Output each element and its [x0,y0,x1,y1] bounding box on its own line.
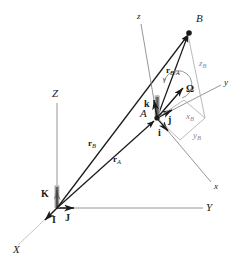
Y-axis-label: Y [206,202,212,213]
point-B-label: B [196,13,203,24]
fixed-frame-axes [18,103,203,245]
moving-frame-axes [141,24,221,182]
r-B-sub: B [92,142,96,149]
moving-frame-cylinder-cap [154,95,159,97]
omega-label: Ω [186,84,194,94]
r-A-vector-arrow [57,121,154,208]
z-comp-sub: B [203,62,207,69]
I-unit-vector-label: I [52,215,56,225]
K-unit-vector-label: K [41,189,49,199]
r-B-vector-label: rB [88,139,96,149]
y-axis-label: y [224,78,228,87]
j-unit-vector-label: j [168,115,171,125]
X-axis-label: X [13,244,20,255]
origin-cylinder-cap [54,185,59,187]
vector-diagram-canvas [0,0,244,266]
i-unit-vector-label: i [158,128,161,138]
component-construction-box [157,35,205,140]
Z-axis-label: Z [52,88,58,99]
y-component-label: yB [193,131,201,141]
r-B-over-A-vector-arrow [157,35,188,118]
point-A-label: A [140,108,147,119]
point-B-marker [186,30,192,36]
point-A-marker [154,115,159,120]
x-component-label: xB [186,112,194,122]
r-A-sub: A [117,158,121,165]
r-A-vector-label: rA [113,155,121,165]
x-axis-label: x [214,182,218,191]
z-axis-label: z [137,12,141,21]
r-B-over-A-vector-label: rB/A [166,66,180,76]
y-comp-sub: B [197,134,201,141]
r-BA-sub: B/A [170,69,180,76]
z-component-label: zB [199,59,206,69]
x-comp-sub: B [190,115,194,122]
J-unit-vector-label: J [65,213,70,223]
